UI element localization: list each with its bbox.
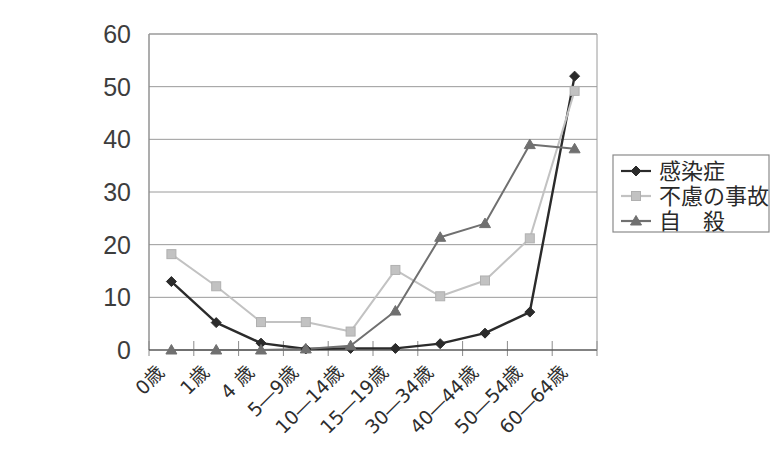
data-point-marker <box>481 276 490 285</box>
legend-label: 不慮の事故 <box>659 184 769 209</box>
data-point-marker <box>570 71 580 81</box>
data-point-marker <box>480 328 490 338</box>
y-tick-label: 10 <box>103 283 131 311</box>
data-point-marker <box>167 250 176 259</box>
data-point-marker <box>390 306 401 316</box>
data-point-marker <box>570 86 579 95</box>
gridlines-group <box>149 34 597 297</box>
data-point-marker <box>435 339 445 349</box>
data-point-marker <box>524 139 535 149</box>
chart-page: ――――――――――――――――――――――― 0102030405060 0歳… <box>0 0 775 471</box>
data-point-marker <box>436 292 445 301</box>
y-tick-label: 40 <box>103 125 131 153</box>
y-tick-label: 0 <box>117 336 131 364</box>
data-point-marker <box>212 282 221 291</box>
x-axis-category-labels: 0歳1歳4 歳5―9歳10―14歳15―19歳30―34歳40―44歳50―54… <box>131 361 572 438</box>
y-tick-label: 30 <box>103 178 131 206</box>
x-category-label: 1歳 <box>175 361 213 399</box>
data-point-marker <box>390 343 400 353</box>
data-point-marker <box>391 265 400 274</box>
x-category-label: 0歳 <box>131 361 169 399</box>
y-tick-label: 20 <box>103 231 131 259</box>
y-axis-tick-labels: 0102030405060 <box>103 20 131 364</box>
data-point-marker <box>632 192 641 201</box>
data-point-marker <box>346 327 355 336</box>
data-point-marker <box>525 307 535 317</box>
data-point-marker <box>257 318 266 327</box>
data-point-marker <box>480 218 491 228</box>
y-tick-label: 60 <box>103 20 131 48</box>
legend-label: 自 殺 <box>659 209 725 234</box>
legend: 感染症不慮の事故自 殺 <box>613 155 769 234</box>
data-point-marker <box>525 234 534 243</box>
data-point-marker <box>301 318 310 327</box>
series-line <box>171 76 574 349</box>
line-chart: 0102030405060 0歳1歳4 歳5―9歳10―14歳15―19歳30―… <box>0 0 775 471</box>
y-tick-label: 50 <box>103 73 131 101</box>
legend-label: 感染症 <box>659 159 725 184</box>
series-line <box>171 91 574 332</box>
series-group <box>166 71 580 354</box>
